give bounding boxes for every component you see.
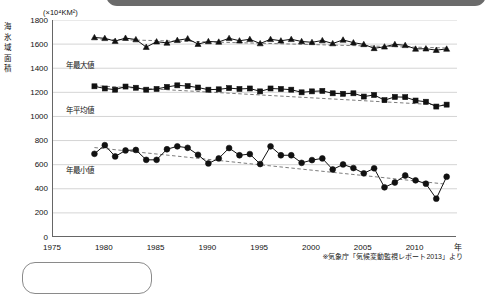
y-axis-tick-label: 200 xyxy=(18,208,48,217)
x-axis-tick-label: 1985 xyxy=(139,243,173,252)
x-axis-tick-label: 1975 xyxy=(35,243,69,252)
y-axis-tick-label: 400 xyxy=(18,184,48,193)
bottom-callout-box xyxy=(22,262,152,294)
page-header-bar: 北極域の海氷域面積の経年変化 xyxy=(106,0,486,6)
chart-canvas xyxy=(53,20,457,237)
x-axis-tick-label: 1995 xyxy=(242,243,276,252)
x-axis-tick-label: 1980 xyxy=(87,243,121,252)
y-axis-tick-label: 1600 xyxy=(18,40,48,49)
y-axis-tick-label: 1000 xyxy=(18,112,48,121)
page-title: 北極域の海氷域面積の経年変化 xyxy=(106,0,486,6)
y-axis-tick-label: 600 xyxy=(18,160,48,169)
y-axis-tick-label: 0 xyxy=(18,233,48,242)
chart-plot-area xyxy=(52,20,456,237)
y-axis-tick-label: 800 xyxy=(18,136,48,145)
source-attribution: ※気象庁「気候変動監視レポート2013」より xyxy=(323,251,463,261)
x-axis-tick-label: 1990 xyxy=(190,243,224,252)
y-axis-unit-caption: (×10⁴KM²) xyxy=(43,8,78,17)
y-axis-tick-label: 1400 xyxy=(18,64,48,73)
y-axis-title: 海氷域面積 xyxy=(2,22,13,75)
y-axis-tick-label: 1200 xyxy=(18,88,48,97)
